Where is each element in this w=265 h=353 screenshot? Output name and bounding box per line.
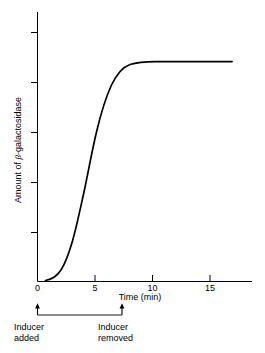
data-curve-beta-galactosidase [46, 62, 233, 281]
inducer-added-label: Inducer added [14, 322, 44, 344]
inducer-removed-label-line2: removed [98, 333, 133, 344]
x-tick-label-15: 15 [200, 283, 220, 293]
inducer-removed-label: Inducer removed [98, 322, 133, 344]
x-tick-label-0: 0 [28, 283, 48, 293]
x-axis-title: Time (min) [100, 292, 180, 302]
y-axis-ticks [31, 33, 38, 233]
inducer-removed-label-line1: Inducer [98, 322, 133, 333]
inducer-added-arrow-icon [35, 303, 40, 315]
x-axis-ticks [38, 275, 211, 282]
beta-galactosidase-induction-chart: 0 5 10 15 Time (min) Amount of β-galacto… [0, 0, 265, 353]
y-axis-title: Amount of β-galactosidase [13, 55, 23, 245]
inducer-added-label-line1: Inducer [14, 322, 44, 333]
y-axis-title-beta-symbol: β [13, 155, 23, 159]
inducer-added-label-line2: added [14, 333, 44, 344]
y-axis-title-suffix: -galactosidase [13, 97, 23, 155]
inducer-removed-arrow-icon [120, 303, 125, 315]
y-axis-title-prefix: Amount of [13, 160, 23, 204]
